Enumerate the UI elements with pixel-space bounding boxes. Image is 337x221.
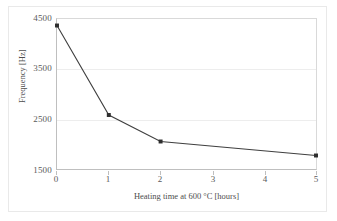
chart-figure: 4500 3500 2500 1500 0 1 2 3 4 5 Heating … <box>0 0 337 221</box>
x-axis-title: Heating time at 600 °C [hours] <box>56 192 317 201</box>
y-axis-ticks: 4500 3500 2500 1500 <box>4 18 52 170</box>
y-tick-4500: 4500 <box>6 14 52 23</box>
y-tick-3500: 3500 <box>6 64 52 73</box>
series-line <box>57 26 316 156</box>
x-tick-3: 3 <box>198 175 228 184</box>
x-tick-4: 4 <box>250 175 280 184</box>
data-point-1 <box>107 113 111 117</box>
x-tick-0: 0 <box>41 175 71 184</box>
x-axis-ticks: 0 1 2 3 4 5 <box>56 175 317 187</box>
plot-area <box>56 18 317 170</box>
x-tick-5: 5 <box>301 175 331 184</box>
y-axis-title: Frequency [Hz] <box>18 26 27 126</box>
y-tick-1500: 1500 <box>6 166 52 175</box>
x-tick-2: 2 <box>145 175 175 184</box>
data-point-3 <box>314 154 318 158</box>
data-point-0 <box>55 24 59 28</box>
data-point-2 <box>159 140 163 144</box>
y-tick-2500: 2500 <box>6 115 52 124</box>
series-frequency <box>57 19 316 169</box>
x-tick-1: 1 <box>93 175 123 184</box>
